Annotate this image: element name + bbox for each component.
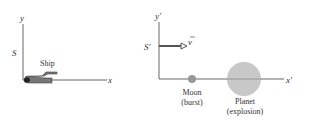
ship-icon — [24, 72, 57, 83]
frame-s: y x S Ship — [12, 13, 112, 85]
velocity-label: v — [188, 37, 192, 47]
moon-label: Moon — [182, 88, 201, 97]
relativity-diagram: y x S Ship y′ x′ S′ v Moon (burst) Plane… — [0, 0, 309, 127]
velocity-arrow-icon — [159, 43, 187, 49]
frame-s-label: S — [12, 48, 17, 58]
frame-s-prime-label: S′ — [144, 42, 152, 52]
y-axis-label: y — [19, 13, 24, 23]
moon-note: (burst) — [181, 98, 203, 107]
frame-s-prime: y′ x′ S′ v Moon (burst) Planet (explosio… — [144, 11, 293, 116]
moon — [188, 75, 196, 83]
ship-label: Ship — [40, 59, 55, 68]
x-prime-axis-label: x′ — [285, 75, 293, 85]
planet-label: Planet — [235, 97, 256, 106]
x-axis-label: x — [107, 75, 112, 85]
planet-note: (explosion) — [227, 107, 264, 116]
y-prime-axis-label: y′ — [154, 11, 162, 21]
